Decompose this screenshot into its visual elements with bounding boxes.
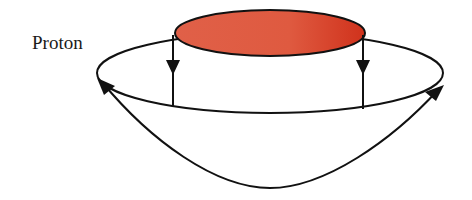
top-disk bbox=[175, 10, 365, 56]
right-down-arrow bbox=[356, 35, 370, 109]
right-curve-arrowhead-icon bbox=[425, 85, 444, 101]
left-curve-arrowhead-icon bbox=[97, 78, 115, 95]
proton-flow-diagram bbox=[0, 0, 472, 200]
left-down-arrow bbox=[166, 35, 180, 107]
left-arrowhead-icon bbox=[166, 60, 180, 75]
return-curve bbox=[102, 82, 438, 188]
right-arrowhead-icon bbox=[356, 60, 370, 75]
